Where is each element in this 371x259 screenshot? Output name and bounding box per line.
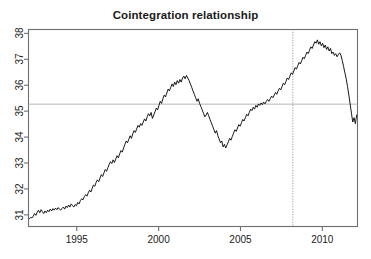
y-tick-label: 33	[15, 152, 25, 174]
x-tick-label: 2005	[220, 235, 260, 245]
y-tick-label: 34	[15, 126, 25, 148]
reference-lines-group	[29, 30, 358, 227]
x-tick-label: 2010	[302, 235, 342, 245]
plot-frame	[29, 30, 358, 227]
y-tick-label: 36	[15, 74, 25, 96]
y-tick-label: 31	[15, 204, 25, 226]
series-line-cointegration-residual	[29, 40, 356, 219]
y-tick-label: 35	[15, 100, 25, 122]
y-tick-label: 32	[15, 178, 25, 200]
x-tick-label: 2000	[139, 235, 179, 245]
axes-group	[24, 30, 358, 232]
x-tick-label: 1995	[57, 235, 97, 245]
y-tick-label: 37	[15, 48, 25, 70]
plot-canvas	[0, 0, 371, 259]
chart-figure: Cointegration relationship 3132333435363…	[0, 0, 371, 259]
y-tick-label: 38	[15, 22, 25, 44]
data-series-group	[29, 40, 356, 219]
